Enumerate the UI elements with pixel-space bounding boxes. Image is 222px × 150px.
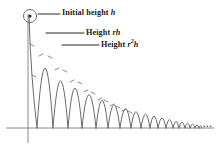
bounce-arc-16 (190, 124, 195, 128)
bounce-arc-3 (68, 88, 82, 128)
bounce-arc-8 (131, 112, 141, 129)
label-height-rh: Height rh (86, 29, 120, 37)
bounce-arc-4 (82, 95, 96, 129)
initial-drop (29, 16, 37, 128)
bounce-arc-12 (166, 120, 173, 129)
label-height-rh-symbol-h: h (116, 28, 121, 37)
label-height-rh-prefix: Height (86, 28, 112, 37)
diagram-canvas (0, 0, 222, 150)
label-initial-height: Initial height h (62, 9, 115, 17)
bounce-arc-14 (179, 122, 185, 128)
bouncing-ball-figure: Initial height h Height rh Height r2h ..… (0, 0, 222, 150)
label-height-r2h-symbol-h: h (134, 40, 139, 49)
bounce-arc-13 (173, 121, 179, 128)
bounce-arc-11 (158, 118, 166, 128)
direction-ticks (30, 44, 132, 113)
label-initial-height-prefix: Initial height (62, 8, 111, 17)
bounce-arc-1 (37, 68, 53, 128)
bounce-arc-10 (150, 116, 158, 128)
bounce-arc-2 (53, 81, 68, 129)
label-height-r2h: Height r2h (101, 41, 138, 49)
bounce-arc-5 (96, 100, 108, 128)
label-initial-height-symbol: h (111, 8, 116, 17)
label-height-r2h-prefix: Height (101, 40, 127, 49)
ellipsis-continuation: ... (203, 120, 213, 129)
bounce-arc-15 (185, 123, 190, 128)
bounce-arc-6 (108, 105, 120, 129)
bounce-arc-9 (141, 114, 150, 128)
ball-icon (28, 14, 31, 17)
